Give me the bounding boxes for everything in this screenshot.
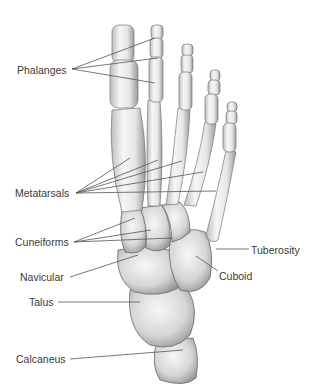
label-calcaneus: Calcaneus	[16, 353, 66, 365]
label-cuneiforms: Cuneiforms	[15, 236, 69, 248]
label-talus: Talus	[29, 296, 54, 308]
talus-bone	[129, 285, 194, 347]
foot-anatomy-diagram: Phalanges Metatarsals Cuneiforms Navicul…	[0, 0, 310, 390]
label-cuboid: Cuboid	[219, 270, 252, 282]
label-phalanges: Phalanges	[17, 64, 67, 76]
label-navicular: Navicular	[20, 271, 64, 283]
label-tuberosity: Tuberosity	[251, 244, 300, 256]
label-metatarsals: Metatarsals	[15, 187, 69, 199]
